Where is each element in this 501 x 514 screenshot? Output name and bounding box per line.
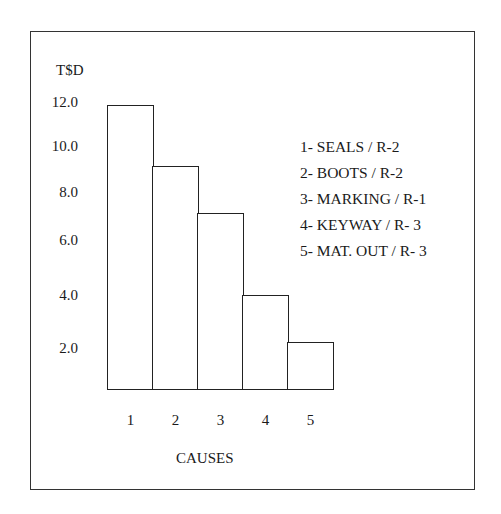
bar-cause-3 — [197, 213, 244, 390]
x-tick-label: 5 — [288, 412, 333, 429]
legend-item: 4- KEYWAY / R- 3 — [300, 212, 427, 238]
bar-cause-1 — [107, 105, 154, 390]
legend-item: 3- MARKING / R-1 — [300, 186, 427, 212]
legend-item: 2- BOOTS / R-2 — [300, 160, 427, 186]
legend-item: 1- SEALS / R-2 — [300, 134, 427, 160]
y-tick-label: 10.0 — [18, 138, 78, 155]
y-tick-label: 8.0 — [18, 184, 78, 201]
y-tick-label: 4.0 — [18, 287, 78, 304]
legend: 1- SEALS / R-22- BOOTS / R-23- MARKING /… — [300, 134, 427, 264]
x-tick-label: 4 — [243, 412, 288, 429]
x-tick-label: 2 — [153, 412, 198, 429]
bar-cause-5 — [287, 342, 334, 390]
x-tick-label: 1 — [108, 412, 153, 429]
x-tick-label: 3 — [198, 412, 243, 429]
y-tick-label: 6.0 — [18, 232, 78, 249]
bar-cause-4 — [242, 295, 289, 390]
x-axis-title: CAUSES — [176, 450, 234, 467]
y-tick-label: 2.0 — [18, 340, 78, 357]
legend-item: 5- MAT. OUT / R- 3 — [300, 238, 427, 264]
bar-cause-2 — [152, 166, 199, 390]
y-axis-unit-label: T$D — [56, 62, 84, 79]
y-tick-label: 12.0 — [18, 94, 78, 111]
